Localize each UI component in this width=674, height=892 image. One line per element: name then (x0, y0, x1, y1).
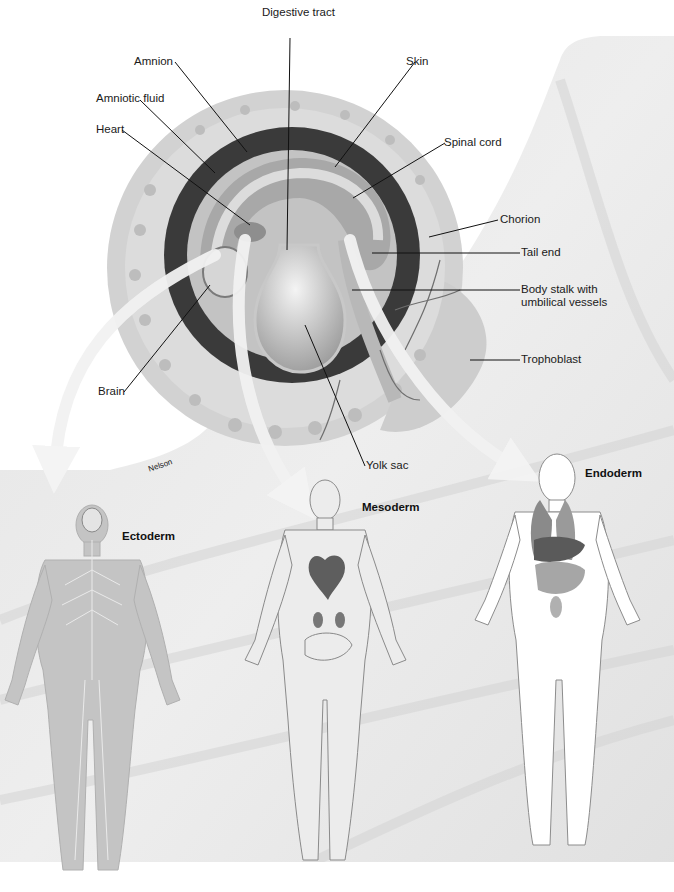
label-digestive-tract: Digestive tract (262, 6, 335, 19)
label-amnion: Amnion (134, 55, 173, 68)
label-heart: Heart (96, 123, 124, 136)
label-ectoderm: Ectoderm (122, 530, 175, 542)
label-tail-end: Tail end (521, 246, 561, 259)
label-mesoderm: Mesoderm (362, 501, 420, 513)
label-endoderm: Endoderm (585, 467, 642, 479)
label-yolk-sac: Yolk sac (366, 459, 408, 472)
label-skin: Skin (406, 55, 428, 68)
label-body-stalk: Body stalk with umbilical vessels (521, 283, 661, 309)
label-trophoblast: Trophoblast (521, 353, 581, 366)
label-body-stalk-line2: umbilical vessels (521, 296, 607, 308)
label-brain: Brain (98, 385, 125, 398)
label-amniotic-fluid: Amniotic fluid (96, 92, 164, 105)
label-chorion: Chorion (500, 213, 540, 226)
germ-layer-diagram: Digestive tract Amnion Amniotic fluid He… (0, 0, 674, 892)
label-body-stalk-line1: Body stalk with (521, 283, 598, 295)
label-spinal-cord: Spinal cord (444, 136, 502, 149)
